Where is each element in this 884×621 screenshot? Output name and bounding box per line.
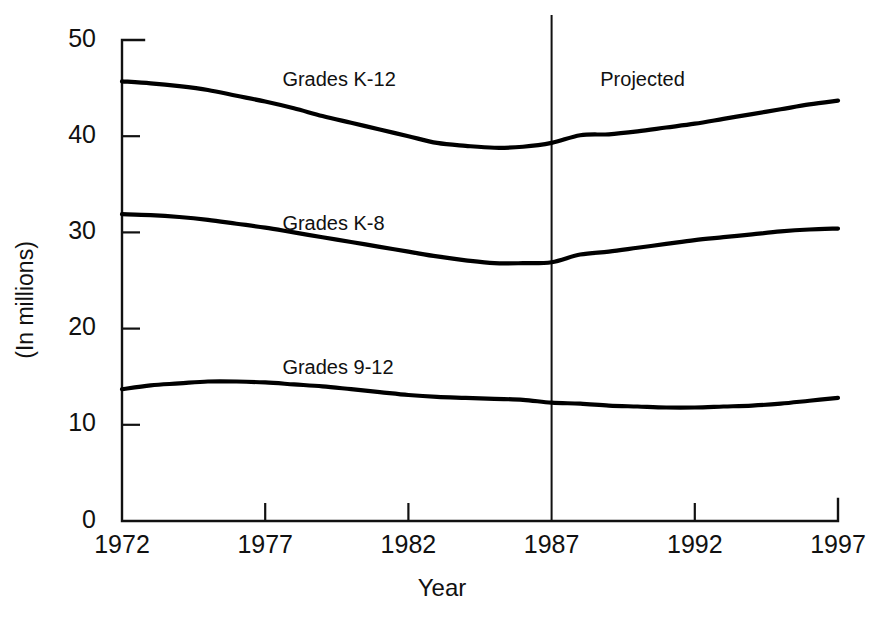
series-inline-labels: Grades K-12Grades K-8Grades 9-12 <box>282 68 395 378</box>
line-chart: 01020304050 197219771982198719921997 Yea… <box>0 0 884 621</box>
series-label-2: Grades K-8 <box>282 212 384 234</box>
x-axis-ticks <box>265 503 695 521</box>
axes-group <box>122 40 838 521</box>
x-tick-label-1992: 1992 <box>667 530 723 558</box>
x-tick-label-1972: 1972 <box>94 530 150 558</box>
y-tick-label-0: 0 <box>82 505 96 533</box>
series-line-1 <box>122 81 838 147</box>
y-tick-label-40: 40 <box>68 120 96 148</box>
axis-lines <box>122 40 838 521</box>
y-axis-title: (In millions) <box>12 241 38 359</box>
x-axis-title: Year <box>418 574 467 601</box>
x-tick-label-1982: 1982 <box>381 530 437 558</box>
annotations: Projected <box>600 68 685 90</box>
y-tick-label-50: 50 <box>68 24 96 52</box>
x-axis-tick-labels: 197219771982198719921997 <box>94 530 866 558</box>
series-label-1: Grades K-12 <box>282 68 395 90</box>
y-axis-ticks <box>122 136 140 425</box>
series-lines <box>122 81 838 407</box>
series-line-2 <box>122 214 838 263</box>
y-tick-label-10: 10 <box>68 408 96 436</box>
x-tick-label-1987: 1987 <box>524 530 580 558</box>
annotation-projected: Projected <box>600 68 685 90</box>
y-tick-label-20: 20 <box>68 312 96 340</box>
series-line-3 <box>122 381 838 407</box>
y-axis-tick-labels: 01020304050 <box>68 24 96 533</box>
chart-container: 01020304050 197219771982198719921997 Yea… <box>0 0 884 621</box>
y-tick-label-30: 30 <box>68 216 96 244</box>
series-label-3: Grades 9-12 <box>282 356 393 378</box>
x-tick-label-1997: 1997 <box>810 530 866 558</box>
x-tick-label-1977: 1977 <box>237 530 293 558</box>
